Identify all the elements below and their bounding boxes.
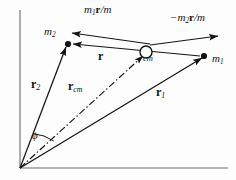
- r2-label-sub: 2: [36, 83, 40, 92]
- r2-label: r2: [31, 78, 40, 92]
- r2-vector: [20, 47, 66, 168]
- r1-label: r1: [156, 86, 165, 100]
- m1-label-sub: 1: [220, 58, 224, 66]
- m1-r-over-m-label: m1r/m: [84, 4, 111, 17]
- m1-label-text: m: [212, 52, 220, 64]
- r-vector: [73, 44, 200, 56]
- r1-label-sub: 1: [161, 91, 165, 100]
- m2-label: m2: [44, 26, 56, 39]
- m2-label-sub: 2: [52, 31, 56, 39]
- m1r-over-m-vector: [72, 33, 150, 44]
- rcm-label-sub: cm: [73, 85, 82, 94]
- m1-point-marker: [201, 53, 207, 59]
- m2-label-text: m: [44, 25, 52, 37]
- r-label-text: r: [98, 49, 103, 63]
- phi-angle-label-text: ϕ: [32, 129, 38, 141]
- r-label: r: [98, 50, 103, 62]
- component-vector-group: [72, 33, 218, 45]
- separation-vector-group: [73, 44, 200, 56]
- rcm-label: rcm: [68, 80, 83, 94]
- r1-vector: [20, 58, 202, 168]
- minus-m2r-over-m-vector: [150, 36, 218, 45]
- minus-m2-r-over-m-label: −m2r/m: [170, 12, 205, 25]
- phi-angle-label: ϕ: [32, 130, 38, 141]
- m1-r-over-m-label-mass: m: [84, 3, 92, 15]
- minus-m2-r-over-m-label-mass: −m: [170, 11, 185, 23]
- m1-r-over-m-label-div: /m: [100, 3, 111, 15]
- m1-label: m1: [212, 53, 224, 66]
- position-vector-group: [20, 47, 202, 168]
- rcm-vector: [20, 56, 143, 168]
- m2-point-marker: [65, 41, 71, 47]
- minus-m2-r-over-m-label-div: /m: [194, 11, 205, 23]
- center-of-mass-diagram: m2 m1 cm m1r/m −m2r/m r r2 rcm r1 ϕ: [0, 0, 236, 180]
- cm-label: cm: [143, 54, 153, 63]
